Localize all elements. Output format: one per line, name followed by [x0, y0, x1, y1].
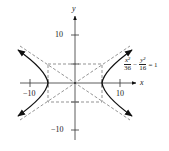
- x-fraction: x² 36: [124, 57, 131, 72]
- origin-point: [74, 82, 76, 84]
- x-tick-neg10: −10: [23, 90, 36, 98]
- y-fraction: y² 16: [139, 57, 146, 72]
- y-tick-10: 10: [55, 31, 63, 39]
- y-tick-neg10: −10: [51, 126, 64, 134]
- y-axis-label: y: [72, 5, 76, 13]
- x-axis-label: x: [140, 79, 144, 87]
- hyperbola-equation: x² 36 − y² 16 = 1: [124, 57, 160, 72]
- hyperbola-plot: [0, 0, 169, 151]
- x-tick-10: 10: [116, 90, 124, 98]
